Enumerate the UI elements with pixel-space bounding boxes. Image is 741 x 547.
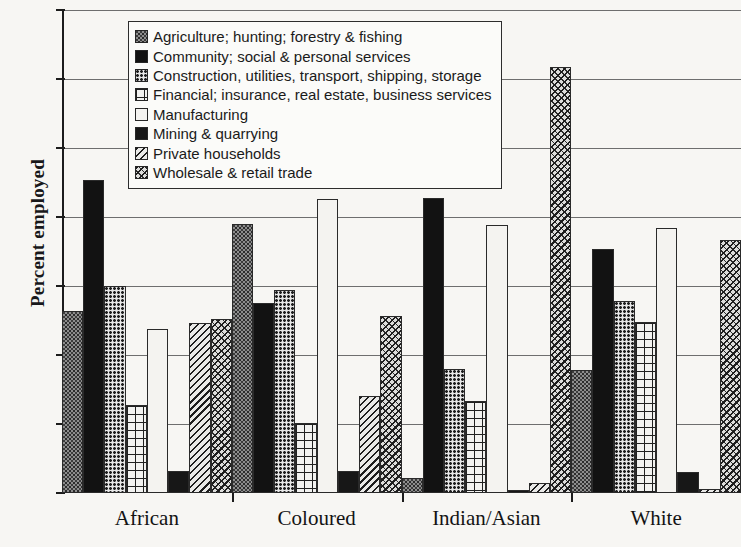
bar-african-financial-insurance-real-estate-business	[126, 405, 147, 493]
legend-item-label: Financial; insurance, real estate, busin…	[153, 87, 492, 102]
cross-grid-icon	[135, 88, 148, 101]
legend-item-mining-quarrying: Mining & quarrying	[135, 124, 492, 143]
bar-coloured-agriculture-hunting-forestry-fishing	[232, 224, 253, 493]
bar-african-private-households	[189, 323, 210, 493]
legend-item-label: Manufacturing	[153, 107, 248, 122]
bar-african-manufacturing	[147, 329, 168, 493]
bar-white-mining-quarrying	[677, 472, 698, 493]
bar-african-agriculture-hunting-forestry-fishing	[62, 311, 83, 493]
white-empty-icon	[135, 108, 148, 121]
y-tick-mark-35	[56, 9, 65, 11]
x-axis-label-coloured: Coloured	[232, 506, 402, 531]
y-tick-mark-30	[56, 78, 65, 80]
legend-item-private-households: Private households	[135, 143, 492, 162]
legend-item-construction-utilities-transport-shippin: Construction, utilities, transport, ship…	[135, 66, 492, 85]
cross-hatch-icon	[135, 166, 148, 179]
bar-white-private-households	[699, 489, 720, 493]
bar-white-construction-utilities-transport-shippin	[614, 301, 635, 493]
bar-coloured-manufacturing	[317, 199, 338, 493]
bar-indian-asian-construction-utilities-transport-shippin	[444, 369, 465, 493]
legend-item-label: Agriculture; hunting; forestry & fishing	[153, 29, 402, 44]
y-tick-mark-20	[56, 216, 65, 218]
bar-white-manufacturing	[656, 228, 677, 493]
bar-indian-asian-agriculture-hunting-forestry-fishing	[402, 478, 423, 493]
bar-african-community-social-personal-services	[83, 180, 104, 493]
bar-white-agriculture-hunting-forestry-fishing	[571, 370, 592, 493]
bar-indian-asian-financial-insurance-real-estate-business	[465, 401, 486, 493]
legend-item-wholesale-retail-trade: Wholesale & retail trade	[135, 163, 492, 182]
bar-indian-asian-manufacturing	[486, 225, 507, 493]
y-axis-title: Percent employed	[27, 123, 49, 343]
solid-black-small-icon	[135, 127, 148, 140]
bar-indian-asian-community-social-personal-services	[423, 198, 444, 493]
legend-item-financial-insurance-real-estate-business: Financial; insurance, real estate, busin…	[135, 85, 492, 104]
bar-chart: Percent employed 05101520253035 AfricanC…	[0, 0, 741, 547]
legend-item-label: Wholesale & retail trade	[153, 165, 312, 180]
bar-coloured-community-social-personal-services	[253, 303, 274, 493]
legend-item-label: Construction, utilities, transport, ship…	[153, 68, 482, 83]
x-axis-label-white: White	[571, 506, 741, 531]
y-tick-mark-15	[56, 285, 65, 287]
legend-item-label: Private households	[153, 146, 281, 161]
diagonal-hatch-icon	[135, 147, 148, 160]
bar-indian-asian-mining-quarrying	[508, 490, 529, 493]
y-tick-mark-25	[56, 147, 65, 149]
bar-african-mining-quarrying	[168, 471, 189, 493]
legend-item-manufacturing: Manufacturing	[135, 105, 492, 124]
bar-coloured-wholesale-retail-trade	[380, 316, 401, 493]
bar-coloured-construction-utilities-transport-shippin	[274, 290, 295, 493]
legend-item-label: Community; social & personal services	[153, 49, 411, 64]
bar-african-construction-utilities-transport-shippin	[104, 286, 125, 493]
legend-item-label: Mining & quarrying	[153, 126, 278, 141]
legend-item-community-social-personal-services: Community; social & personal services	[135, 46, 492, 65]
bar-coloured-financial-insurance-real-estate-business	[295, 423, 316, 493]
fine-dot-grid-icon	[135, 69, 148, 82]
bar-indian-asian-wholesale-retail-trade	[550, 67, 571, 493]
x-tick-mark-2	[402, 493, 404, 502]
x-tick-mark-1	[232, 493, 234, 502]
bar-african-wholesale-retail-trade	[211, 319, 232, 493]
x-tick-mark-3	[571, 493, 573, 502]
solid-black-icon	[135, 50, 148, 63]
bar-coloured-mining-quarrying	[338, 471, 359, 493]
bar-white-community-social-personal-services	[592, 249, 613, 493]
bar-white-wholesale-retail-trade	[720, 240, 741, 493]
x-axis-label-indian-asian: Indian/Asian	[402, 506, 572, 531]
bar-coloured-private-households	[359, 396, 380, 493]
dark-speckle-icon	[135, 30, 148, 43]
bar-white-financial-insurance-real-estate-business	[635, 322, 656, 493]
legend-item-agriculture-hunting-forestry-fishing: Agriculture; hunting; forestry & fishing	[135, 27, 492, 46]
bar-indian-asian-private-households	[529, 483, 550, 493]
x-axis-label-african: African	[62, 506, 232, 531]
chart-legend: Agriculture; hunting; forestry & fishing…	[128, 21, 502, 189]
